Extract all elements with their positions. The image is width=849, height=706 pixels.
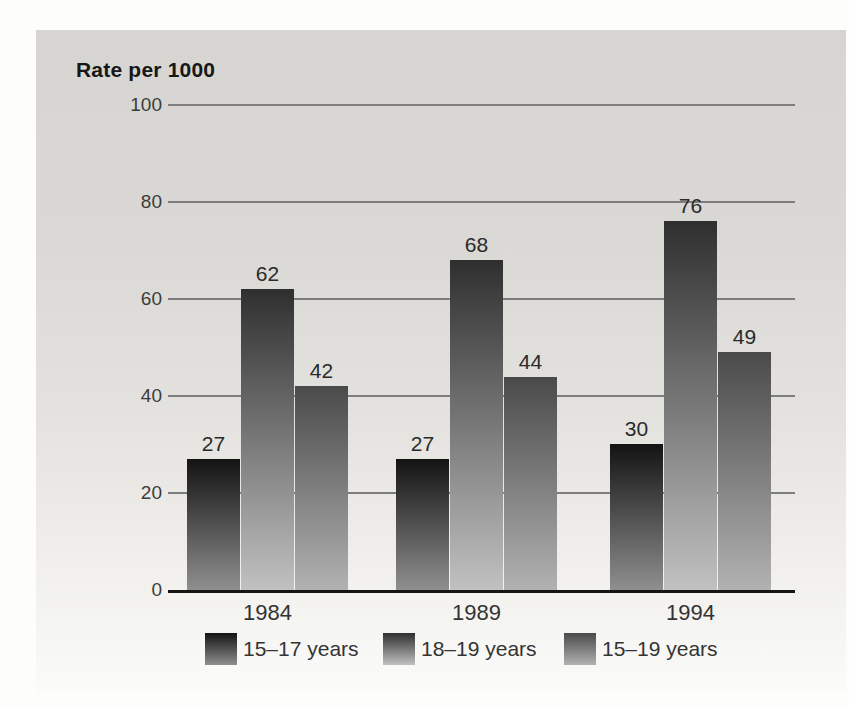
bar-1994-series1 [610, 444, 663, 590]
x-category-label-1989: 1989 [417, 601, 537, 625]
y-tick-label-80: 80 [102, 191, 162, 213]
bar-value-label: 62 [241, 263, 294, 285]
gridline-100 [168, 104, 795, 106]
bar-value-label: 76 [664, 195, 717, 217]
bar-1989-series3 [504, 377, 557, 590]
y-tick-label-20: 20 [102, 482, 162, 504]
bar-1994-series2 [664, 221, 717, 590]
x-category-label-1994: 1994 [631, 601, 751, 625]
bar-1984-series1 [187, 459, 240, 590]
legend-label-3: 15–19 years [602, 637, 718, 661]
y-tick-label-40: 40 [102, 385, 162, 407]
bar-value-label: 68 [450, 234, 503, 256]
y-tick-label-100: 100 [102, 94, 162, 116]
bar-value-label: 30 [610, 418, 663, 440]
bar-value-label: 27 [396, 433, 449, 455]
legend-swatch-1 [205, 633, 237, 665]
bar-1984-series2 [241, 289, 294, 590]
legend-label-2: 18–19 years [421, 637, 537, 661]
legend-label-1: 15–17 years [243, 637, 359, 661]
y-tick-label-0: 0 [102, 579, 162, 601]
bar-1984-series3 [295, 386, 348, 590]
legend-swatch-3 [564, 633, 596, 665]
legend-item-3: 15–19 years [564, 633, 718, 665]
x-axis-line [168, 590, 795, 593]
bar-1994-series3 [718, 352, 771, 590]
chart-panel: Rate per 1000 02040608010027624219842768… [36, 30, 846, 692]
y-tick-label-60: 60 [102, 288, 162, 310]
legend-swatch-2 [383, 633, 415, 665]
bar-value-label: 49 [718, 326, 771, 348]
bar-1989-series1 [396, 459, 449, 590]
legend-item-2: 18–19 years [383, 633, 537, 665]
bar-1989-series2 [450, 260, 503, 590]
bar-value-label: 42 [295, 360, 348, 382]
bar-value-label: 44 [504, 351, 557, 373]
bar-value-label: 27 [187, 433, 240, 455]
legend-item-1: 15–17 years [205, 633, 359, 665]
x-category-label-1984: 1984 [208, 601, 328, 625]
y-axis-title: Rate per 1000 [76, 58, 215, 82]
